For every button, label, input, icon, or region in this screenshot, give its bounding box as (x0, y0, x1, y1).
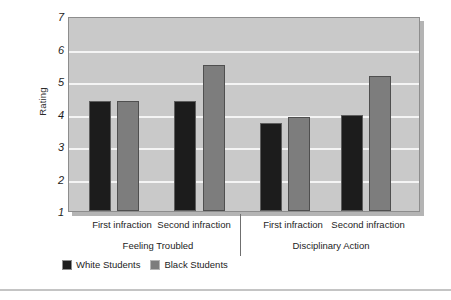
legend-label-black-students: Black Students (164, 259, 227, 270)
y-axis-tick-labels: 7654321 (46, 17, 64, 212)
group-axis-labels: Feeling TroubledDisciplinary Action (0, 240, 451, 256)
bar-chart-figure: Rating 7654321 First infractionSecond in… (0, 0, 451, 300)
plot-area (68, 17, 420, 212)
bars-layer (69, 18, 419, 211)
category-label-1: Second infraction (157, 219, 230, 230)
y-axis-tick-4: 4 (46, 109, 64, 121)
y-axis-tick-2: 2 (46, 174, 64, 186)
chart-legend: White StudentsBlack Students (62, 259, 228, 270)
group-label-0: Feeling Troubled (123, 240, 194, 251)
category-label-3: Second infraction (331, 219, 404, 230)
category-axis-labels: First infractionSecond infractionFirst i… (0, 219, 451, 235)
category-label-0: First infraction (92, 219, 152, 230)
bar-white-students-0 (89, 101, 111, 212)
bar-black-students-7 (369, 76, 391, 211)
bottom-divider-rule (0, 289, 451, 291)
y-axis-tick-7: 7 (46, 11, 64, 23)
y-axis-tick-3: 3 (46, 141, 64, 153)
bar-black-students-3 (203, 65, 225, 211)
category-label-2: First infraction (263, 219, 323, 230)
y-axis-tick-6: 6 (46, 44, 64, 56)
legend-item-black-students[interactable]: Black Students (150, 259, 227, 270)
bar-black-students-1 (117, 101, 139, 212)
group-label-1: Disciplinary Action (292, 240, 369, 251)
bar-white-students-6 (341, 115, 363, 211)
legend-swatch-icon-white-students (62, 260, 72, 270)
legend-item-white-students[interactable]: White Students (62, 259, 140, 270)
bar-black-students-5 (288, 117, 310, 211)
bar-white-students-2 (174, 101, 196, 212)
y-axis-tick-1: 1 (46, 206, 64, 218)
legend-swatch-icon-black-students (150, 260, 160, 270)
bar-white-students-4 (260, 123, 282, 211)
y-axis-tick-5: 5 (46, 76, 64, 88)
legend-label-white-students: White Students (76, 259, 140, 270)
